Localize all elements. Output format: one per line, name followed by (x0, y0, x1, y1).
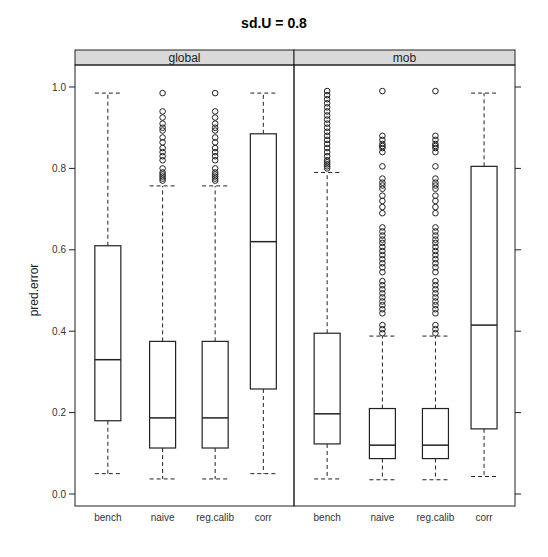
outlier-point (160, 90, 166, 96)
outlier-point (380, 330, 386, 336)
y-tick-label: 0.8 (52, 163, 66, 174)
outlier-point (433, 210, 439, 216)
outlier-point (212, 109, 218, 115)
outlier-point (433, 310, 439, 316)
strip-label: mob (393, 51, 417, 65)
outlier-point (433, 198, 439, 204)
panel-mob: mobbenchnaivereg.calibcorr (294, 50, 515, 523)
outlier-point (380, 310, 386, 316)
outlier-point (160, 115, 166, 121)
outlier-point (380, 149, 386, 155)
outlier-point (433, 204, 439, 210)
outlier-point (380, 193, 386, 199)
x-tick-label: corr (475, 512, 493, 523)
outlier-point (160, 109, 166, 115)
outlier-point (380, 88, 386, 94)
x-tick-label: reg.calib (196, 512, 234, 523)
y-tick-label: 1.0 (52, 82, 66, 93)
box-corr (471, 93, 497, 476)
outlier-point (380, 210, 386, 216)
x-tick-label: bench (314, 512, 341, 523)
panel-global: globalbenchnaivereg.calibcorr (75, 50, 294, 523)
x-tick-label: naive (370, 512, 394, 523)
outlier-point (433, 88, 439, 94)
plot-area: globalbenchnaivereg.calibcorrmobbenchnai… (52, 50, 521, 523)
x-tick-label: reg.calib (417, 512, 455, 523)
outlier-point (380, 164, 386, 170)
y-tick-label: 0.0 (52, 489, 66, 500)
outlier-point (212, 115, 218, 121)
y-tick-label: 0.2 (52, 407, 66, 418)
box-naive (369, 88, 395, 479)
outlier-point (380, 198, 386, 204)
outlier-point (433, 164, 439, 170)
outlier-point (160, 157, 166, 163)
outlier-point (433, 193, 439, 199)
x-tick-label: naive (151, 512, 175, 523)
box-naive (150, 90, 176, 479)
box-corr (250, 93, 276, 474)
box-reg.calib (202, 90, 228, 479)
y-tick-label: 0.6 (52, 244, 66, 255)
x-tick-label: corr (255, 512, 273, 523)
box-bench (314, 88, 340, 479)
outlier-point (433, 330, 439, 336)
x-tick-label: bench (94, 512, 121, 523)
outlier-point (433, 149, 439, 155)
y-axis-label: pred.error (27, 264, 41, 317)
outlier-point (212, 90, 218, 96)
chart-title: sd.U = 0.8 (241, 15, 307, 31)
y-tick-label: 0.4 (52, 326, 66, 337)
box-reg.calib (422, 88, 448, 479)
box-plot-chart: sd.U = 0.8 pred.error globalbenchnaivere… (0, 0, 548, 557)
outlier-point (380, 204, 386, 210)
strip-label: global (168, 51, 200, 65)
outlier-point (212, 157, 218, 163)
box-bench (95, 93, 121, 474)
